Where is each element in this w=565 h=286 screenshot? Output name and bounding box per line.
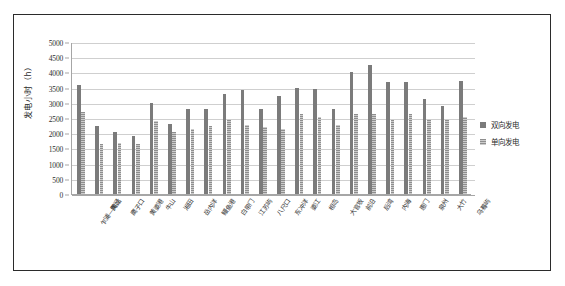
bar <box>172 132 176 194</box>
bar <box>459 81 463 194</box>
y-tick-label: 2000 <box>49 130 63 139</box>
x-tick-label: 惠门 <box>417 197 431 212</box>
x-tick-label: 婆江 <box>308 197 322 212</box>
bar <box>186 109 190 194</box>
bar <box>423 99 427 194</box>
y-tick-label: 4500 <box>49 54 63 63</box>
bar <box>463 117 467 194</box>
y-tick-label: 1500 <box>49 145 63 154</box>
bar <box>350 72 354 194</box>
x-tick-label: 相岛 <box>327 197 341 212</box>
gridline <box>72 195 475 196</box>
bar <box>372 114 376 194</box>
bar <box>295 88 299 194</box>
bar <box>113 132 117 194</box>
bar <box>336 125 340 194</box>
bar <box>191 129 195 194</box>
bar <box>204 109 208 194</box>
bar <box>81 112 85 194</box>
bar <box>136 144 140 194</box>
bar <box>227 119 231 194</box>
bar <box>354 114 358 194</box>
y-tick-mark <box>65 58 69 59</box>
x-tick-label: 乌蓦屿 <box>475 197 493 217</box>
legend-swatch-icon <box>480 139 486 145</box>
x-tick-label: 内海 <box>399 197 413 212</box>
y-tick-label: 5000 <box>49 39 63 48</box>
y-tick-label: 500 <box>52 175 63 184</box>
bar <box>313 89 317 194</box>
y-tick-mark <box>65 43 69 44</box>
bar <box>445 120 449 194</box>
y-tick-mark <box>65 134 69 135</box>
bar <box>245 125 249 194</box>
bar <box>223 94 227 194</box>
legend-label: 双向发电 <box>491 119 519 130</box>
bar <box>277 96 281 194</box>
y-tick-label: 1000 <box>49 160 63 169</box>
legend-swatch-icon <box>480 122 486 128</box>
y-tick-mark <box>65 103 69 104</box>
chart-frame: 发电小时（h） 05001000150020002500300035004000… <box>13 14 551 271</box>
bar-series-container <box>72 43 471 194</box>
bar <box>132 136 136 194</box>
bar <box>386 82 390 194</box>
legend-item-bidirectional: 双向发电 <box>480 119 519 130</box>
bar <box>77 85 81 194</box>
y-tick-mark <box>65 149 69 150</box>
y-tick-mark <box>65 119 69 120</box>
y-tick-label: 2500 <box>49 115 63 124</box>
bar <box>241 90 245 194</box>
y-tick-label: 0 <box>59 191 63 200</box>
x-tick-label: 后湾 <box>381 197 395 212</box>
x-tick-label: 白带门 <box>238 197 256 217</box>
x-tick-label: 八尺口 <box>275 197 293 217</box>
bar <box>409 114 413 194</box>
y-tick-mark <box>65 179 69 180</box>
bar <box>300 114 304 194</box>
legend-item-unidirectional: 单向发电 <box>480 136 519 147</box>
x-tick-label: 鳗鱼港 <box>220 197 238 217</box>
x-axis-tick-labels: 乍浦—黄姑陶泾鹰子口黄婆港牛山湘田岳内洋鳗鱼港白带门江苏屿八尺口东冲洋婆江相岛大… <box>71 197 471 263</box>
y-tick-mark <box>65 73 69 74</box>
x-tick-label: 江苏屿 <box>256 197 274 217</box>
bar <box>95 126 99 194</box>
chart-legend: 双向发电 单向发电 <box>480 119 519 153</box>
y-tick-mark <box>65 164 69 165</box>
legend-label: 单向发电 <box>491 136 519 147</box>
bar <box>168 124 172 194</box>
bar <box>404 82 408 194</box>
y-tick-label: 4000 <box>49 69 63 78</box>
bar <box>259 109 263 194</box>
y-tick-label: 3000 <box>49 99 63 108</box>
bar <box>368 65 372 194</box>
bar <box>391 120 395 194</box>
bar <box>150 103 154 194</box>
bar <box>154 121 158 194</box>
bar <box>209 126 213 194</box>
bar <box>441 106 445 194</box>
bar <box>318 117 322 194</box>
bar <box>281 129 285 194</box>
y-axis-tick-labels: 0500100015002000250030003500400045005000 <box>14 43 69 195</box>
x-tick-label: 前沿 <box>363 197 377 212</box>
x-tick-label: 泉州 <box>436 197 450 212</box>
bar <box>427 119 431 194</box>
plot-area <box>71 43 471 195</box>
x-tick-label: 鹰子口 <box>129 197 147 217</box>
x-tick-label: 湘田 <box>181 197 195 212</box>
bar <box>118 143 122 194</box>
y-tick-mark <box>65 195 69 196</box>
x-tick-label: 大竹 <box>454 197 468 212</box>
x-tick-label: 牛山 <box>163 197 177 212</box>
y-tick-label: 3500 <box>49 84 63 93</box>
bar <box>100 144 104 194</box>
x-tick-label: 岳内洋 <box>202 197 220 217</box>
bar <box>263 127 267 194</box>
bar <box>332 109 336 194</box>
y-tick-mark <box>65 88 69 89</box>
